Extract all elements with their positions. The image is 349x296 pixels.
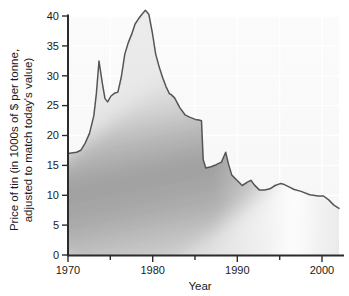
x-tick-label: 1970	[56, 264, 80, 276]
chart-container: 0 5 10 15 20 25 30 35 40 1970 1980 1990 …	[0, 0, 349, 296]
x-axis-ticks	[68, 256, 322, 262]
y-tick-label: 20	[47, 129, 59, 141]
tin-price-area-chart: 0 5 10 15 20 25 30 35 40 1970 1980 1990 …	[0, 0, 349, 296]
x-tick-label: 1980	[140, 264, 164, 276]
x-axis-tick-labels: 1970 1980 1990 2000	[56, 264, 334, 276]
x-axis-title: Year	[188, 280, 211, 292]
y-axis-tick-labels: 0 5 10 15 20 25 30 35 40	[47, 10, 59, 261]
y-tick-label: 0	[53, 249, 59, 261]
y-tick-label: 30	[47, 70, 59, 82]
y-axis-title-line2: adjusted to match today's value)	[22, 58, 34, 223]
y-tick-label: 25	[47, 99, 59, 111]
y-axis-title: Price of tin (in 1000s of $ per tonne, a…	[8, 49, 34, 231]
y-axis-title-line1: Price of tin (in 1000s of $ per tonne,	[8, 49, 20, 231]
x-tick-label: 2000	[310, 264, 334, 276]
y-tick-label: 35	[47, 40, 59, 52]
y-tick-label: 15	[47, 159, 59, 171]
y-tick-label: 10	[47, 189, 59, 201]
y-tick-label: 5	[53, 219, 59, 231]
x-tick-label: 1990	[225, 264, 249, 276]
y-tick-label: 40	[47, 10, 59, 22]
